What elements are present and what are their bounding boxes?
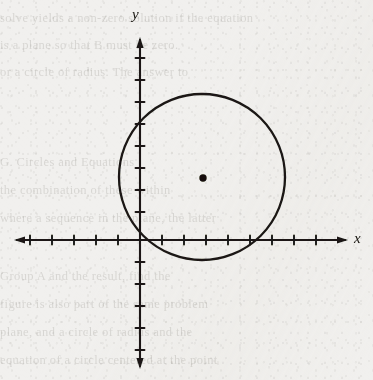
x-axis-label: x	[354, 230, 361, 247]
x-axis-arrow-right	[337, 236, 348, 243]
y-axis-arrow-down	[136, 358, 143, 369]
coordinate-plot	[0, 0, 373, 380]
figure-container: solve yields a non-zero solution if the …	[0, 0, 373, 380]
circle-center-point	[199, 174, 206, 181]
y-axis-label: y	[132, 6, 139, 23]
y-axis-arrow-up	[136, 37, 143, 48]
x-axis-arrow-left	[14, 236, 25, 243]
